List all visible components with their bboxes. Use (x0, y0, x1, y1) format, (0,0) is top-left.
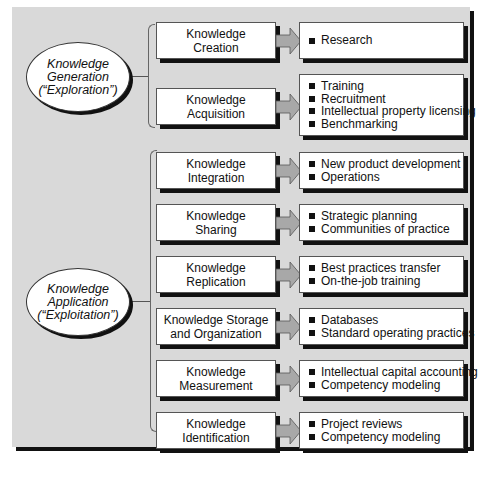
example-item: Communities of practice (309, 223, 463, 236)
process-name-line: Knowledge (157, 209, 275, 223)
bullet-icon (309, 96, 315, 102)
example-item: Intellectual property licensing (309, 105, 463, 118)
bullet-icon (309, 161, 315, 167)
process-name-line: Knowledge (157, 365, 275, 379)
examples-box-sharing: Strategic planning Communities of practi… (299, 204, 464, 241)
group-label-line: (“Exploitation”) (37, 309, 118, 322)
example-item: Best practices transfer (309, 262, 463, 275)
bullet-icon (309, 83, 315, 89)
process-name-line: Creation (157, 41, 275, 55)
group-label-application: Knowledge Application (“Exploitation”) (26, 268, 130, 336)
bullet-icon (309, 38, 315, 44)
example-item: Competency modeling (309, 431, 463, 444)
example-item: Project reviews (309, 418, 463, 431)
example-item: Intellectual capital accounting (309, 366, 463, 379)
bullet-icon (309, 174, 315, 180)
examples-box-replication: Best practices transfer On-the-job train… (299, 256, 464, 293)
group-label-generation: Knowledge Generation (“Exploration”) (26, 42, 130, 112)
group-label-line: Knowledge (47, 58, 109, 71)
example-item: New product development (309, 158, 463, 171)
process-box-creation: Knowledge Creation (156, 22, 276, 59)
examples-box-measurement: Intellectual capital accounting Competen… (299, 360, 464, 397)
examples-box-storage: Databases Standard operating practices (299, 308, 464, 345)
examples-box-acquisition: Training Recruitment Intellectual proper… (299, 74, 464, 136)
bullet-icon (309, 330, 315, 336)
process-name-line: Knowledge (157, 157, 275, 171)
process-name-line: Replication (157, 275, 275, 289)
bullet-icon (309, 317, 315, 323)
bullet-icon (309, 121, 315, 127)
process-name-line: Knowledge Storage (157, 313, 275, 327)
process-box-storage: Knowledge Storage and Organization (156, 308, 276, 345)
process-name-line: Knowledge (157, 27, 275, 41)
process-box-replication: Knowledge Replication (156, 256, 276, 293)
frame-shadow (470, 11, 474, 451)
process-box-acquisition: Knowledge Acquisition (156, 88, 276, 125)
examples-box-identification: Project reviews Competency modeling (299, 412, 464, 449)
process-name-line: Sharing (157, 223, 275, 237)
group-label-line: (“Exploration”) (38, 84, 117, 97)
process-name-line: Integration (157, 171, 275, 185)
process-box-identification: Knowledge Identification (156, 412, 276, 449)
bullet-icon (309, 369, 315, 375)
example-item: Strategic planning (309, 210, 463, 223)
process-name-line: Identification (157, 431, 275, 445)
bullet-icon (309, 421, 315, 427)
group-bracket-generation (148, 24, 155, 128)
example-item: Competency modeling (309, 379, 463, 392)
bullet-icon (309, 108, 315, 114)
process-name-line: Knowledge (157, 261, 275, 275)
group-label-line: Generation (47, 71, 109, 84)
example-item: Training (309, 80, 463, 93)
group-label-line: Application (47, 296, 108, 309)
process-box-sharing: Knowledge Sharing (156, 204, 276, 241)
examples-box-integration: New product development Operations (299, 152, 464, 189)
group-label-line: Knowledge (47, 283, 109, 296)
bullet-icon (309, 226, 315, 232)
process-name-line: Knowledge (157, 93, 275, 107)
process-box-measurement: Knowledge Measurement (156, 360, 276, 397)
example-item: Benchmarking (309, 118, 463, 131)
bullet-icon (309, 434, 315, 440)
example-item: Databases (309, 314, 463, 327)
bullet-icon (309, 382, 315, 388)
process-name-line: Measurement (157, 379, 275, 393)
bullet-icon (309, 213, 315, 219)
example-item: Operations (309, 171, 463, 184)
examples-box-creation: Research (299, 22, 464, 59)
process-name-line: and Organization (157, 327, 275, 341)
process-name-line: Knowledge (157, 417, 275, 431)
process-box-integration: Knowledge Integration (156, 152, 276, 189)
example-item: On-the-job training (309, 275, 463, 288)
example-item: Standard operating practices (309, 327, 463, 340)
bullet-icon (309, 265, 315, 271)
bullet-icon (309, 278, 315, 284)
process-name-line: Acquisition (157, 107, 275, 121)
example-item: Research (309, 34, 463, 47)
